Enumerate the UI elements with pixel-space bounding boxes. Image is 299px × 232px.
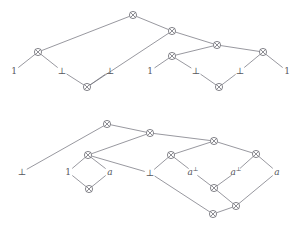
leaf-label-text: ⊥	[58, 66, 66, 76]
proof-net-edge	[259, 156, 273, 168]
proof-net-edge	[155, 176, 210, 212]
proof-net-edge	[91, 134, 146, 154]
proof-net-edge	[197, 175, 211, 185]
leaf-label-text: ⊥	[146, 168, 154, 178]
proof-net-figure: 1⊥⊥1⊥⊥1⊥1a⊥a⊥a⊥a	[0, 0, 299, 232]
leaf-label: ⊥	[58, 67, 66, 76]
tensor-node-icon	[83, 83, 90, 90]
tensor-node-icon	[168, 27, 175, 34]
tensor-node-icon	[168, 52, 175, 59]
tensor-node-icon	[210, 184, 217, 191]
tensor-node-icon	[103, 120, 110, 127]
proof-net-edge	[67, 74, 84, 85]
leaf-label: ⊥	[18, 168, 26, 177]
tensor-node-icon	[84, 151, 91, 158]
proof-net-edge	[92, 175, 106, 186]
leaf-label-text: 1	[11, 66, 17, 76]
proof-net-edge	[217, 175, 232, 186]
leaf-label: a⊥	[230, 168, 241, 177]
leaf-label-text: a	[274, 167, 279, 177]
leaf-label: ⊥	[192, 67, 200, 76]
tensor-node-icon	[259, 48, 266, 55]
tensor-node-icon	[215, 83, 222, 90]
tensor-node-icon	[209, 210, 216, 217]
proof-net-edge	[155, 58, 169, 68]
leaf-label-text: a	[107, 167, 112, 177]
proof-net-edge	[174, 142, 210, 154]
proof-net-edge	[216, 207, 232, 213]
proof-net-edge	[240, 156, 253, 168]
proof-net-edge	[201, 74, 217, 85]
proof-net-edge	[90, 74, 106, 85]
proof-net-edge	[221, 46, 260, 52]
proof-net-edge	[244, 54, 260, 67]
leaf-label-text: ⊥	[106, 66, 114, 76]
leaf-label: ⊥	[146, 169, 154, 178]
tensor-node-icon	[85, 185, 92, 192]
proof-net-edge	[222, 74, 236, 84]
proof-net-canvas	[0, 0, 299, 232]
proof-net-edge	[154, 157, 168, 169]
leaf-label: a	[107, 168, 112, 177]
leaf-label: 1	[284, 67, 290, 76]
proof-net-edge	[41, 54, 58, 67]
proof-net-edge	[91, 157, 106, 168]
tensor-node-icon	[34, 48, 41, 55]
proof-net-edge	[239, 176, 273, 204]
tensor-node-icon	[252, 150, 259, 157]
leaf-label-superscript: ⊥	[193, 165, 199, 172]
proof-net-edge	[90, 33, 169, 85]
tensor-node-icon	[129, 11, 136, 18]
proof-net-edge	[176, 46, 214, 55]
proof-net-edge	[72, 157, 85, 168]
nodes-layer	[34, 11, 266, 217]
proof-net-edge	[266, 54, 283, 67]
leaf-label-text: ⊥	[18, 167, 26, 177]
leaf-label-text: 1	[147, 66, 153, 76]
proof-net-edge	[18, 54, 35, 67]
leaf-label: a⊥	[187, 168, 198, 177]
tensor-node-icon	[210, 137, 217, 144]
leaf-label: ⊥	[236, 67, 244, 76]
tensor-node-icon	[167, 151, 174, 158]
leaf-label-text: ⊥	[236, 66, 244, 76]
tensor-node-icon	[213, 41, 220, 48]
leaf-label-superscript: ⊥	[236, 165, 242, 172]
proof-net-edge	[111, 125, 147, 133]
proof-net-edge	[41, 16, 129, 50]
leaf-label-text: ⊥	[192, 66, 200, 76]
proof-net-edge	[175, 32, 213, 44]
leaf-label: 1	[65, 168, 71, 177]
leaf-label: ⊥	[106, 67, 114, 76]
leaf-label: 1	[147, 67, 153, 76]
tensor-node-icon	[146, 129, 153, 136]
proof-net-edge	[217, 142, 252, 153]
leaf-label: 1	[11, 67, 17, 76]
proof-net-edge	[154, 133, 211, 140]
proof-net-edge	[72, 175, 86, 186]
leaf-label-text: 1	[65, 167, 71, 177]
leaf-label: a	[274, 168, 279, 177]
proof-net-edge	[27, 126, 104, 170]
proof-net-edge	[217, 190, 233, 203]
proof-net-edge	[175, 58, 191, 68]
tensor-node-icon	[232, 202, 239, 209]
leaf-label-text: 1	[284, 66, 290, 76]
proof-net-edge	[136, 16, 168, 29]
proof-net-edge	[174, 157, 189, 168]
edges-layer	[18, 16, 282, 213]
